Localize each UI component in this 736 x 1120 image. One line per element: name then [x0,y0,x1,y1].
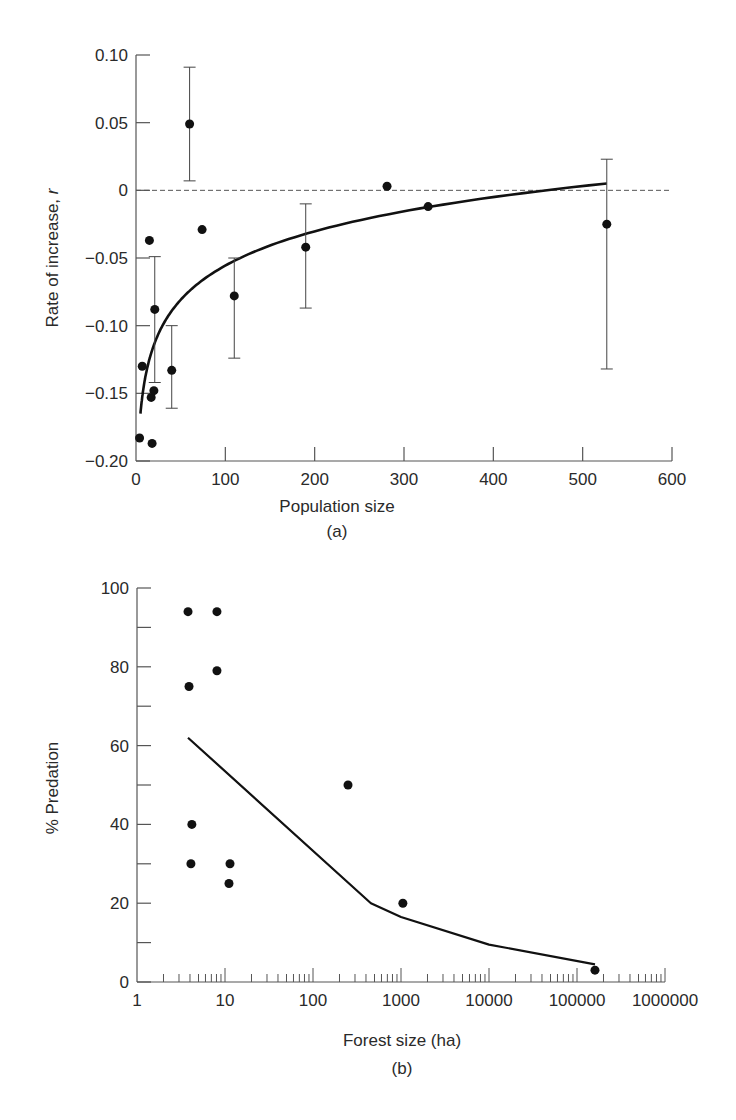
data-point [185,682,194,691]
data-point [184,607,193,616]
data-point [138,362,147,371]
data-point [224,879,233,888]
x-tick-label: 1000 [382,991,420,1010]
x-axis-title-b: Forest size (ha) [343,1031,461,1050]
data-point [148,439,157,448]
panel-label-b: (b) [392,1059,413,1078]
data-point [135,433,144,442]
y-tick-label: 0 [120,973,129,992]
y-axis-title-b: % Predation [43,742,62,835]
data-point [185,120,194,129]
x-axis-title-a: Population size [279,497,394,516]
y-tick-label: 0.05 [95,114,128,133]
panel-label-a: (a) [327,522,348,541]
data-point [187,820,196,829]
y-tick-label: −0.20 [85,452,128,471]
data-point [590,966,599,975]
data-point [186,859,195,868]
x-tick-label: 0 [131,470,140,489]
axes-b: 0204060801001101001000100001000001000000 [101,579,698,1010]
figure: −0.20−0.15−0.10−0.0500.050.1001002003004… [0,0,736,1120]
x-tick-label: 500 [568,470,596,489]
y-tick-label: −0.15 [85,384,128,403]
y-tick-label: −0.10 [85,317,128,336]
data-point [149,386,158,395]
y-tick-label: 60 [110,737,129,756]
y-tick-label: 40 [110,815,129,834]
data-point [212,607,221,616]
data-point [145,236,154,245]
data-point [344,781,353,790]
data-point [198,225,207,234]
y-tick-label: 20 [110,894,129,913]
chart-panel-a: −0.20−0.15−0.10−0.0500.050.1001002003004… [43,46,686,541]
fit-curve-a [141,184,607,414]
y-tick-label: 80 [110,658,129,677]
x-tick-label: 10000 [465,991,512,1010]
data-point [226,859,235,868]
axes-a: −0.20−0.15−0.10−0.0500.050.1001002003004… [85,46,686,489]
data-point [424,202,433,211]
error-bars-a [149,67,613,408]
x-tick-label: 10 [216,991,235,1010]
x-tick-label: 600 [658,470,686,489]
data-point [301,243,310,252]
y-tick-label: 0.10 [95,46,128,65]
x-tick-label: 1 [132,991,141,1010]
data-point [212,666,221,675]
x-tick-label: 100000 [549,991,606,1010]
data-point [167,366,176,375]
data-point [383,182,392,191]
x-tick-label: 300 [390,470,418,489]
x-tick-label: 100 [211,470,239,489]
data-point [150,305,159,314]
data-point [602,220,611,229]
y-tick-label: 100 [101,579,129,598]
y-tick-label: 0 [119,181,128,200]
data-points-a [135,120,611,448]
chart-panel-b: 0204060801001101001000100001000001000000… [43,579,698,1078]
y-axis-title-a: Rate of increase, r [43,187,62,327]
x-tick-label: 200 [300,470,328,489]
x-tick-label: 400 [479,470,507,489]
data-point [398,899,407,908]
y-tick-label: −0.05 [85,249,128,268]
x-tick-label: 100 [299,991,327,1010]
data-point [230,291,239,300]
x-tick-label: 1000000 [632,991,698,1010]
fit-line-b [188,738,595,965]
